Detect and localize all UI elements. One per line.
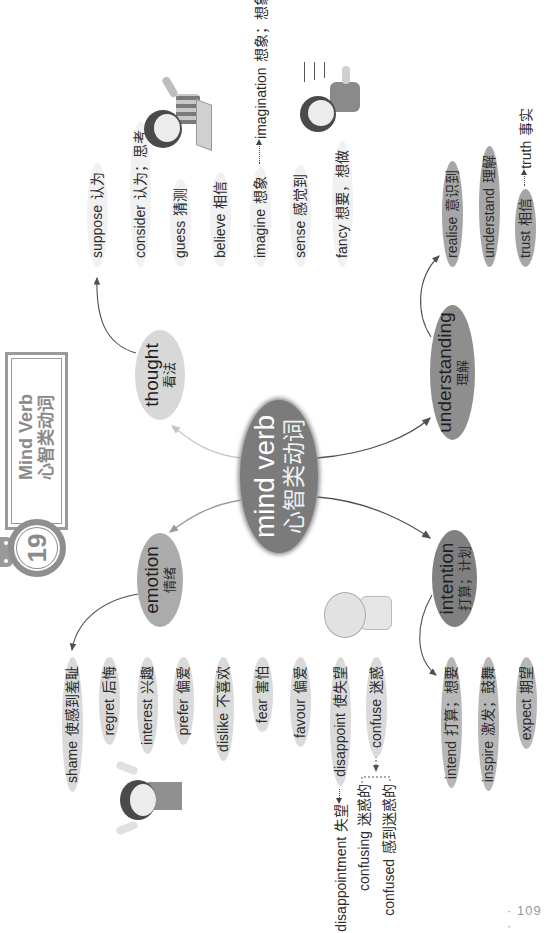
thought-item-fancy: fancy想要，想做 bbox=[331, 141, 353, 267]
word-pill: interest兴趣 bbox=[137, 657, 158, 754]
emotion-item-fear: fear害怕 bbox=[251, 657, 273, 732]
derived-word-disappointment: disappointment失望 bbox=[330, 804, 350, 932]
word-pill: regret后悔 bbox=[99, 657, 120, 745]
branch-emotion-chinese: 情绪 bbox=[162, 567, 178, 593]
word-pill: shame使感到羞耻 bbox=[62, 657, 83, 792]
central-node: mind verb 心智类动词 bbox=[240, 400, 318, 553]
emotion-item-favour: favour偏爱 bbox=[289, 657, 311, 747]
word-pill: dislike不喜欢 bbox=[213, 657, 234, 761]
thought-item-sense: sense感觉到 bbox=[289, 165, 311, 267]
branch-emotion: emotion 情绪 bbox=[137, 533, 183, 627]
thought-item-imagine: imagine想象 imagination想象；想象力 bbox=[249, 0, 271, 267]
branch-understanding: understanding 理解 bbox=[430, 305, 475, 440]
word-pill: believe相信 bbox=[210, 172, 231, 267]
link-center-understanding bbox=[317, 418, 430, 458]
central-node-chinese: 心智类动词 bbox=[280, 419, 308, 534]
branch-thought-chinese: 看法 bbox=[162, 362, 178, 388]
thought-item-guess: guess猜测 bbox=[169, 179, 191, 267]
word-pill: expect期望 bbox=[516, 657, 537, 749]
branch-thought: thought 看法 bbox=[135, 330, 185, 420]
derived-word-truth: truth事实 bbox=[515, 108, 535, 169]
branch-intention-chinese: 打算；计划 bbox=[457, 546, 473, 611]
unit-number-badge: 19 bbox=[8, 519, 66, 577]
link-intention-intend bbox=[420, 595, 436, 675]
word-pill: disappoint使失望 bbox=[330, 657, 351, 786]
derived-word-imagination: imagination想象；想象力 bbox=[250, 0, 270, 139]
link-center-emotion bbox=[170, 500, 241, 532]
dotted-arrow-left-icon bbox=[339, 789, 341, 801]
word-pill: inspire激发；鼓舞 bbox=[478, 657, 499, 791]
emotion-item-shame: shame使感到羞耻 bbox=[61, 657, 83, 792]
link-emotion-shame bbox=[72, 594, 138, 650]
unit-number: 19 bbox=[22, 534, 53, 563]
understanding-item-trust: trust相信 truth事实 bbox=[514, 108, 536, 267]
intention-item-inspire: inspire激发；鼓舞 bbox=[477, 657, 499, 791]
intention-item-intend: intend打算；想要 bbox=[440, 657, 462, 788]
word-pill: understand理解 bbox=[479, 146, 500, 267]
baby-illustration bbox=[324, 588, 392, 642]
confuse-bracket bbox=[362, 777, 390, 783]
title-english: Mind Verb bbox=[16, 394, 37, 480]
emotion-item-interest: interest兴趣 bbox=[136, 657, 158, 754]
word-pill: guess猜测 bbox=[170, 179, 191, 267]
intention-item-expect: expect期望 bbox=[515, 657, 537, 749]
branch-emotion-english: emotion bbox=[142, 546, 162, 614]
word-pill: confuse迷惑 bbox=[366, 657, 387, 757]
emotion-item-confuse: confuse迷惑 bbox=[365, 657, 387, 757]
page-number: · 109 · bbox=[507, 903, 549, 933]
word-pill: prefer偏爱 bbox=[173, 657, 194, 745]
link-center-thought bbox=[172, 426, 241, 458]
girl-running-illustration bbox=[298, 58, 374, 134]
boy-cheering-illustration bbox=[112, 762, 184, 834]
word-pill: imagine想象 bbox=[250, 167, 271, 267]
word-pill: suppose认为 bbox=[87, 163, 108, 267]
word-pill: intend打算；想要 bbox=[441, 657, 462, 788]
branch-intention-english: intention bbox=[437, 543, 457, 615]
word-pill: trust相信 bbox=[515, 189, 536, 267]
emotion-item-dislike: dislike不喜欢 bbox=[212, 657, 234, 761]
word-pill: fancy想要，想做 bbox=[332, 141, 353, 267]
word-pill: favour偏爱 bbox=[290, 657, 311, 747]
girl-reading-illustration bbox=[140, 72, 214, 154]
branch-intention: intention 打算；计划 bbox=[432, 530, 477, 627]
dotted-arrow-right-icon bbox=[259, 142, 261, 164]
emotion-item-prefer: prefer偏爱 bbox=[172, 657, 194, 745]
title-chinese: 心智类动词 bbox=[37, 395, 57, 480]
understanding-item-understand: understand理解 bbox=[478, 146, 500, 267]
word-pill: fear害怕 bbox=[252, 657, 273, 732]
derived-word-confused: confused感到迷惑的 bbox=[377, 784, 399, 916]
branch-understanding-chinese: 理解 bbox=[455, 360, 471, 386]
emotion-item-disappoint: disappointment失望 disappoint使失望 bbox=[329, 657, 351, 932]
branch-thought-english: thought bbox=[142, 343, 162, 406]
word-pill: sense感觉到 bbox=[290, 165, 311, 267]
word-pill: realise意识到 bbox=[442, 161, 463, 267]
thought-item-suppose: suppose认为 bbox=[86, 163, 108, 267]
link-center-intention bbox=[317, 497, 430, 538]
dotted-arrow-right-icon bbox=[524, 172, 526, 186]
thought-item-believe: believe相信 bbox=[209, 172, 231, 267]
emotion-item-regret: regret后悔 bbox=[98, 657, 120, 745]
derived-word-confusing: confusing迷惑的 bbox=[352, 784, 374, 891]
link-thought-suppose bbox=[97, 278, 136, 353]
central-node-english: mind verb bbox=[250, 415, 280, 538]
understanding-item-realise: realise意识到 bbox=[441, 161, 463, 267]
title-box: Mind Verb 心智类动词 bbox=[5, 352, 68, 530]
branch-understanding-english: understanding bbox=[435, 312, 455, 432]
